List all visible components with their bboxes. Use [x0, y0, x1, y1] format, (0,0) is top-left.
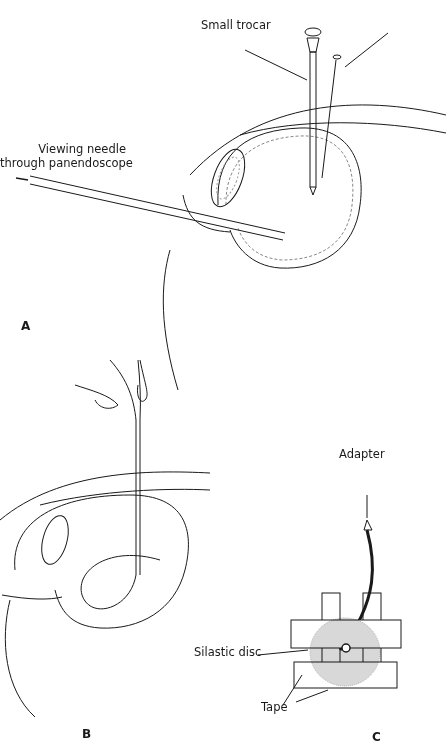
label-small-trocar: Small trocar — [201, 18, 271, 32]
panel-a-drawing — [16, 28, 446, 390]
panel-label-b: B — [82, 727, 91, 741]
panel-label-c: C — [372, 730, 381, 744]
label-silastic-disc: Silastic disc — [194, 645, 261, 659]
label-adapter: Adapter — [339, 447, 385, 461]
label-tape: Tape — [261, 700, 288, 714]
label-viewing-needle-line1: Viewing needle — [6, 142, 126, 156]
panel-label-a: A — [21, 319, 30, 333]
label-viewing-needle-line2: through panendoscope — [0, 156, 126, 170]
panel-c-drawing — [258, 495, 401, 705]
panel-b-drawing — [0, 360, 210, 717]
medical-illustration — [0, 0, 446, 751]
